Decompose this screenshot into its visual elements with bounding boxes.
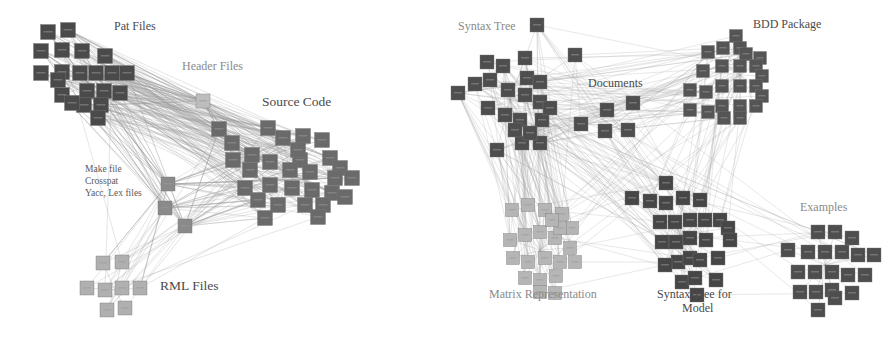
cluster-label-documents: Documents bbox=[588, 77, 643, 91]
cluster-label-syntax-tree-model-1: Syntax Tree for bbox=[657, 288, 732, 302]
cluster-label-header-files: Header Files bbox=[182, 60, 243, 74]
cluster-label-syntax-tree: Syntax Tree bbox=[458, 20, 516, 34]
cluster-label-matrix-rep: Matrix Representation bbox=[489, 288, 597, 302]
module-graph-right bbox=[0, 0, 894, 343]
cluster-bdd bbox=[684, 30, 769, 125]
cluster-label-examples: Examples bbox=[800, 201, 847, 215]
cluster-label-yacc-lex: Yacc, Lex files bbox=[85, 187, 142, 199]
cluster-label-rml-files: RML Files bbox=[160, 278, 218, 294]
cluster-label-crosspat: Crosspat bbox=[85, 175, 118, 187]
cluster-label-make-file: Make file bbox=[85, 163, 122, 175]
cluster-label-pat-files: Pat Files bbox=[114, 20, 156, 34]
cluster-label-bdd-package: BDD Package bbox=[753, 18, 821, 32]
cluster-examples bbox=[781, 225, 881, 317]
cluster-docs bbox=[574, 96, 640, 138]
diagram-canvas: Pat FilesHeader FilesSource CodeMake fil… bbox=[0, 0, 894, 343]
cluster-label-syntax-tree-model-2: Model bbox=[682, 302, 713, 316]
cluster-label-source-code: Source Code bbox=[262, 94, 331, 110]
